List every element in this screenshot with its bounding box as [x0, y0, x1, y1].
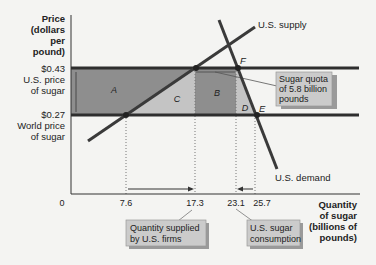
svg-text:Sugar quota: Sugar quota	[279, 74, 328, 84]
y-tick-low-sub2: of sugar	[31, 131, 65, 142]
svg-text:U.S. sugar: U.S. sugar	[250, 223, 293, 233]
x-axis-title-1: Quantity	[318, 199, 357, 210]
area-d-label: D	[242, 103, 249, 113]
y-axis-title-1: Price	[42, 13, 65, 24]
supplied-leader	[178, 210, 192, 221]
point-e-label: E	[259, 103, 266, 114]
supply-label: U.S. supply	[258, 19, 307, 30]
area-b-label: B	[214, 88, 220, 98]
x-origin: 0	[59, 198, 64, 208]
arrowhead-right	[188, 187, 194, 192]
quota-callout: Sugar quota of 5.8 billion pounds	[276, 72, 337, 109]
point-us-supply	[193, 65, 199, 71]
y-axis-title-2: (dollars	[31, 24, 65, 35]
svg-text:pounds: pounds	[279, 94, 309, 104]
area-a-label: A	[110, 85, 117, 95]
point-world-supply	[123, 112, 129, 118]
point-f-label: F	[240, 55, 247, 66]
y-tick-high-sub2: of sugar	[31, 85, 65, 96]
supplied-callout: Quantity supplied by U.S. firms	[126, 220, 209, 249]
area-c-label: C	[174, 94, 181, 104]
x-tick-3: 23.1	[227, 198, 245, 208]
consumption-callout: U.S. sugar consumption	[247, 220, 303, 249]
y-tick-low: $0.27	[41, 109, 65, 120]
svg-text:of 5.8 billion: of 5.8 billion	[279, 84, 327, 94]
y-axis-title-3: per	[50, 35, 65, 46]
demand-label: U.S. demand	[275, 172, 330, 183]
y-tick-high: $0.43	[41, 63, 65, 74]
svg-text:consumption: consumption	[250, 234, 301, 244]
x-axis-title-2: of sugar	[320, 210, 358, 221]
y-tick-low-sub1: World price	[17, 120, 65, 131]
x-tick-2: 17.3	[186, 198, 204, 208]
svg-text:by U.S. firms: by U.S. firms	[130, 234, 182, 244]
svg-text:Quantity supplied: Quantity supplied	[130, 223, 200, 233]
y-tick-high-sub1: U.S. price	[23, 74, 65, 85]
arrowhead-left	[237, 187, 243, 192]
x-axis-title-3: (billions of	[309, 221, 358, 232]
y-axis-title-4: pound)	[33, 46, 65, 57]
x-tick-1: 7.6	[120, 198, 133, 208]
x-tick-4: 25.7	[253, 198, 271, 208]
x-axis-title-4: pounds)	[320, 232, 357, 243]
chart-svg: Price (dollars per pound) $0.43 U.S. pri…	[0, 0, 376, 265]
sugar-quota-chart: Price (dollars per pound) $0.43 U.S. pri…	[0, 0, 376, 265]
